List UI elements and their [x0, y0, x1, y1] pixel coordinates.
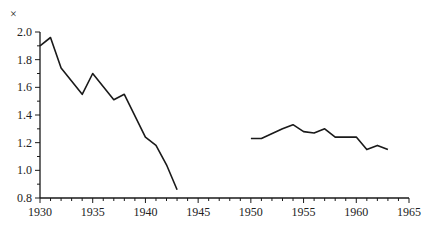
axes: 193019351940194519501955196019650.81.01.…: [17, 25, 421, 219]
y-tick-label: 0.8: [17, 191, 32, 205]
y-tick-label: 1.8: [17, 53, 32, 67]
x-tick-label: 1940: [133, 205, 157, 219]
x-tick-label: 1930: [28, 205, 52, 219]
series-line-segment-1: [40, 38, 177, 190]
series-line-segment-2: [251, 125, 388, 150]
x-tick-label: 1950: [239, 205, 263, 219]
y-tick-label: 1.0: [17, 163, 32, 177]
data-lines: [40, 38, 388, 190]
y-tick-label: 1.4: [17, 108, 32, 122]
y-tick-label: 1.2: [17, 136, 32, 150]
line-chart: 193019351940194519501955196019650.81.01.…: [0, 0, 435, 230]
x-tick-label: 1960: [344, 205, 368, 219]
y-tick-label: 1.6: [17, 80, 32, 94]
y-axis-unit: ×: [10, 7, 17, 21]
x-tick-label: 1935: [81, 205, 105, 219]
x-tick-label: 1945: [186, 205, 210, 219]
x-tick-label: 1965: [397, 205, 421, 219]
y-tick-label: 2.0: [17, 25, 32, 39]
x-tick-label: 1955: [292, 205, 316, 219]
